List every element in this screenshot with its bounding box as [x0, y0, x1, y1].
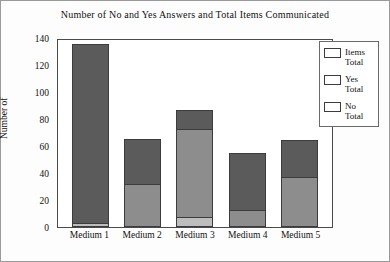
x-tick-medium-1: Medium 1 [64, 230, 114, 240]
y-axis-label: Number of [0, 98, 9, 139]
bar-medium-5 [281, 140, 318, 227]
chart-figure: Number of No and Yes Answers and Total I… [0, 0, 390, 262]
x-tick-medium-5: Medium 5 [276, 230, 326, 240]
bar-segment-no-total [177, 217, 212, 226]
bar-group [58, 40, 332, 227]
legend-label-line1: Items [345, 47, 365, 57]
y-tick-120: 120 [35, 61, 49, 71]
y-tick-100: 100 [35, 88, 49, 98]
x-tick-medium-3: Medium 3 [170, 230, 220, 240]
bar-segment-items-total [125, 140, 160, 185]
legend-label-line2: Total [345, 57, 363, 67]
bar-segment-yes-total [282, 177, 317, 226]
legend-swatch-items-total [324, 48, 341, 58]
chart-title: Number of No and Yes Answers and Total I… [1, 9, 389, 20]
bar-segment-items-total [230, 154, 265, 209]
legend-swatch-no-total [324, 102, 341, 112]
legend-item-items-total: Items Total [324, 47, 374, 67]
bar-segment-yes-total [125, 184, 160, 226]
bar-medium-2 [124, 139, 161, 227]
legend-label-no-total: No Total [345, 101, 363, 121]
legend-label-yes-total: Yes Total [345, 74, 363, 94]
legend-item-no-total: No Total [324, 101, 374, 121]
bar-segment-items-total [73, 45, 108, 223]
x-tick-medium-2: Medium 2 [117, 230, 167, 240]
legend-label-line2: Total [345, 111, 363, 121]
bar-segment-yes-total [177, 129, 212, 217]
bar-segment-items-total [282, 141, 317, 177]
legend-item-yes-total: Yes Total [324, 74, 374, 94]
chart-legend: Items Total Yes Total No Total [319, 41, 379, 127]
y-tick-20: 20 [40, 196, 50, 206]
bar-segment-yes-total [230, 210, 265, 226]
bar-medium-1 [72, 44, 109, 227]
bar-segment-items-total [177, 111, 212, 129]
x-axis: Medium 1 Medium 2 Medium 3 Medium 4 Medi… [57, 230, 333, 240]
y-tick-40: 40 [40, 169, 50, 179]
y-tick-80: 80 [40, 115, 50, 125]
y-tick-60: 60 [40, 142, 50, 152]
bar-segment-no-total [73, 223, 108, 226]
legend-swatch-yes-total [324, 75, 341, 85]
bar-medium-4 [229, 153, 266, 227]
legend-label-line1: No [345, 101, 356, 111]
y-axis: Number of 140 120 100 80 60 40 20 0 [1, 39, 55, 228]
y-tick-140: 140 [35, 34, 49, 44]
y-tick-0: 0 [44, 223, 49, 233]
plot-area [57, 39, 333, 228]
legend-label-line2: Total [345, 84, 363, 94]
x-tick-medium-4: Medium 4 [223, 230, 273, 240]
legend-label-line1: Yes [345, 74, 358, 84]
bar-medium-3 [176, 110, 213, 227]
legend-label-items-total: Items Total [345, 47, 365, 67]
